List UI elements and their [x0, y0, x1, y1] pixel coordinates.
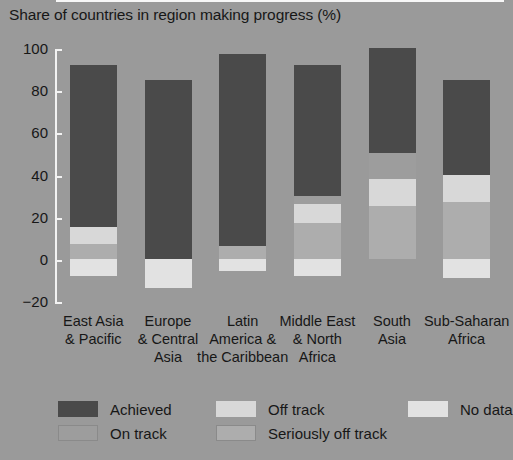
legend-label: On track	[110, 425, 167, 442]
bar-segment-no-data	[70, 259, 117, 276]
bar-segment	[369, 48, 416, 153]
x-axis-category-labels: East Asia& PacificEurope& CentralAsiaLat…	[56, 312, 506, 390]
bar-segment	[369, 206, 416, 259]
legend-label: Seriously off track	[268, 425, 387, 442]
x-axis-label: Sub-SaharanAfrica	[420, 312, 513, 348]
legend-label: Achieved	[110, 401, 172, 418]
bar-segment	[145, 80, 192, 259]
chart-title: Share of countries in region making prog…	[9, 6, 341, 24]
bar-segment	[443, 202, 490, 259]
legend-item[interactable]: On track	[58, 422, 167, 444]
bar-segment	[369, 153, 416, 178]
x-axis-label-line: Africa	[271, 348, 364, 366]
bar-segment	[294, 196, 341, 204]
bar-segment	[369, 179, 416, 206]
bar-segment	[70, 244, 117, 259]
x-axis-label-line: Sub-Saharan	[420, 312, 513, 330]
bar-segment-no-data	[145, 259, 192, 289]
legend-item[interactable]: Off track	[216, 398, 324, 420]
bar-segment-no-data	[219, 259, 266, 272]
legend-swatch	[58, 401, 98, 417]
bar-segment	[70, 65, 117, 227]
legend-swatch	[216, 401, 256, 417]
legend-swatch	[58, 425, 98, 441]
y-axis-tick-label: −20	[2, 293, 48, 310]
y-axis-tick-label: 80	[2, 82, 48, 99]
legend-label: Off track	[268, 401, 324, 418]
legend-item[interactable]: Achieved	[58, 398, 172, 420]
bar-segment-no-data	[294, 259, 341, 276]
y-axis-tick-label: 60	[2, 124, 48, 141]
x-axis-label-line: Africa	[420, 330, 513, 348]
bar-segment-no-data	[443, 259, 490, 278]
legend-label: No data	[460, 401, 513, 418]
bar-segment	[294, 65, 341, 196]
y-axis-tick-label: 40	[2, 167, 48, 184]
y-axis-tick-label: 100	[2, 40, 48, 57]
bar-segment	[443, 80, 490, 175]
legend-swatch	[216, 425, 256, 441]
y-axis-tick-label: 0	[2, 251, 48, 268]
bar-segment	[219, 54, 266, 246]
zero-baseline	[56, 0, 504, 2]
bar-segment	[294, 223, 341, 259]
legend-item[interactable]: No data	[408, 398, 513, 420]
bar-segment	[70, 227, 117, 244]
bar-segment	[294, 204, 341, 223]
bar-segment	[443, 175, 490, 202]
plot-area	[56, 48, 504, 303]
y-axis-tick-label: 20	[2, 209, 48, 226]
chart-legend: AchievedOn trackOff trackSeriously off t…	[0, 398, 511, 454]
legend-item[interactable]: Seriously off track	[216, 422, 387, 444]
legend-swatch	[408, 401, 448, 417]
bar-segment	[219, 246, 266, 259]
